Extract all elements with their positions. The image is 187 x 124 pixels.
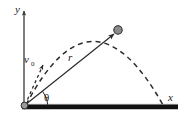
projectile-particle <box>114 26 122 34</box>
y-axis-label: y <box>14 3 20 15</box>
origin-point <box>21 102 28 109</box>
diagram-canvas: y x v 0 r θ <box>0 0 187 124</box>
x-axis-label: x <box>167 91 173 103</box>
velocity-subscript-label: 0 <box>31 60 35 68</box>
velocity-label: v <box>24 53 29 65</box>
radius-vector <box>25 34 114 105</box>
velocity-vector <box>25 65 43 105</box>
angle-label: θ <box>44 91 49 103</box>
projectile-motion-figure: y x v 0 r θ <box>0 0 187 124</box>
radius-label: r <box>68 51 73 63</box>
